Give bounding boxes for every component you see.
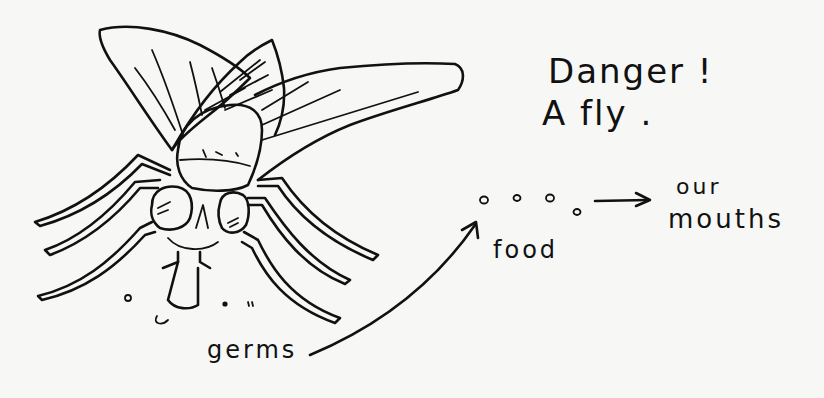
fly-legs-left (35, 155, 170, 300)
food-to-mouths-arrow (595, 193, 650, 206)
title-line-danger: Danger ! (548, 50, 713, 92)
fly-left-wing (100, 27, 260, 150)
fly-head (151, 187, 248, 249)
fly-legs-right (242, 178, 378, 323)
germs-label: germs (207, 336, 297, 364)
mouths-label: mouths (668, 204, 784, 234)
food-label: food (493, 236, 558, 264)
fly-right-wing (255, 63, 463, 180)
our-label: our (676, 174, 721, 199)
diagram-canvas: Danger ! A fly . food our mouths germs (0, 0, 824, 398)
food-dots (480, 195, 581, 216)
fly-middle-wing (172, 40, 284, 150)
fly-proboscis (163, 252, 210, 308)
fly-thorax (177, 105, 262, 191)
title-line-a-fly: A fly . (542, 92, 713, 134)
diagram-title: Danger ! A fly . (548, 50, 713, 134)
